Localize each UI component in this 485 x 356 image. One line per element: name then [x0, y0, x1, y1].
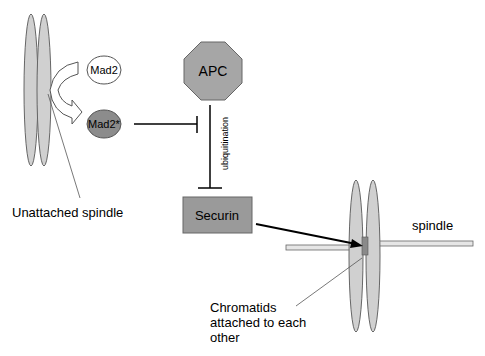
ubiquitination-label: ubiquitination: [220, 117, 230, 170]
chromatids-label-line1: Chromatids: [210, 300, 276, 315]
spindle-bar-right: [378, 241, 473, 246]
apc-label: APC: [199, 63, 228, 79]
mad2-inhibits-apc-edge: [134, 116, 197, 133]
attached-chromatid-pair: [349, 180, 380, 332]
unattached-chromatid-pair: [24, 14, 51, 166]
securin-label: Securin: [195, 208, 239, 223]
chromatids-label-line3: other: [210, 330, 240, 345]
conversion-arrow-icon: [50, 62, 82, 124]
securin-to-chromatids-arrow: [256, 224, 363, 248]
spindle-bar-left: [286, 245, 356, 250]
mad2-active-label: Mad2*: [88, 118, 121, 130]
unattached-spindle-label: Unattached spindle: [12, 205, 123, 220]
spindle-label: spindle: [412, 218, 453, 233]
mad2-label: Mad2: [90, 64, 118, 76]
chromatids-label-line2: attached to each: [210, 315, 306, 330]
apc-inhibits-securin-edge: [198, 105, 222, 188]
